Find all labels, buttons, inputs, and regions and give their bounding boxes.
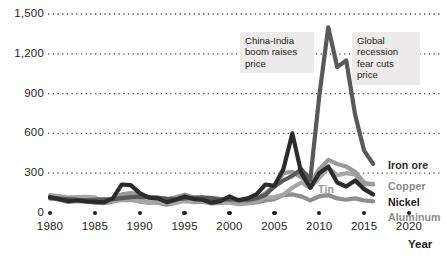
x-axis-title: Year (408, 238, 432, 250)
series-label-iron-ore: Iron ore (388, 159, 428, 171)
annotation-global-recession: Global recession fear cuts price (352, 32, 420, 85)
y-axis-tick-label: 1,200 (0, 47, 44, 59)
x-axis-tick-label: 2005 (252, 220, 296, 232)
y-axis-tick-label: 900 (0, 87, 44, 99)
series-label-copper: Copper (388, 180, 426, 192)
x-axis-tick-label: 1990 (118, 220, 162, 232)
x-axis-tick-label: 1980 (28, 220, 72, 232)
x-axis-tick-dot (227, 211, 231, 215)
series-label-tin: Tin (318, 183, 334, 195)
y-axis-tick-label: 0 (0, 206, 44, 218)
x-axis-tick-label: 1995 (163, 220, 207, 232)
y-axis-tick-label: 600 (0, 126, 44, 138)
x-axis-tick-dot (272, 211, 276, 215)
x-axis-tick-label: 2000 (208, 220, 252, 232)
series-label-aluminum: Aluminum (388, 211, 441, 223)
y-axis-tick-label: 300 (0, 166, 44, 178)
x-axis-tick-dot (182, 211, 186, 215)
x-axis-tick-dot (138, 211, 142, 215)
price-index-line-chart: 03006009001,2001,500 1980198519901995200… (0, 0, 447, 258)
x-axis-tick-label: 2015 (342, 220, 386, 232)
x-axis-tick-label: 2010 (297, 220, 341, 232)
annotation-china-india-boom: China-India boom raises price (240, 32, 314, 73)
series-lines-group (50, 27, 373, 205)
series-label-nickel: Nickel (388, 196, 420, 208)
x-axis-tick-label: 1985 (73, 220, 117, 232)
y-axis-tick-label: 1,500 (0, 7, 44, 19)
